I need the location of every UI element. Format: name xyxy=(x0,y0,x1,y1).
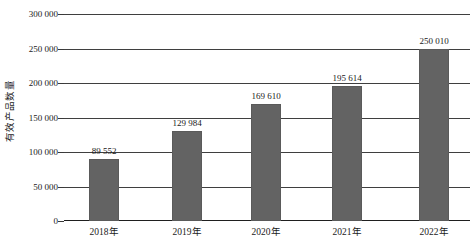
x-tick-label-2018: 2018年 xyxy=(69,228,139,238)
x-tick-label-2020: 2020年 xyxy=(231,228,301,238)
y-tick-label: 300 000 xyxy=(6,10,58,19)
bar-2020[interactable] xyxy=(251,104,281,221)
y-tick-label: 250 000 xyxy=(6,44,58,53)
y-tick-mark xyxy=(58,221,64,222)
x-tick-label-2021: 2021年 xyxy=(312,228,382,238)
x-tick-label-2022: 2022年 xyxy=(399,228,469,238)
y-tick-label: 200 000 xyxy=(6,79,58,88)
y-tick-label: 50 000 xyxy=(6,182,58,191)
y-tick-label: 150 000 xyxy=(6,113,58,122)
x-axis-tick-labels: 2018年 2019年 2020年 2021年 2022年 xyxy=(0,228,476,248)
y-tick-label: 0 xyxy=(6,217,58,226)
bar-2018[interactable] xyxy=(89,159,119,221)
bar-2019[interactable] xyxy=(172,131,202,221)
bar-2021[interactable] xyxy=(332,86,362,221)
y-axis-tick-labels: 300 000 250 000 200 000 150 000 100 000 … xyxy=(0,0,58,249)
bar-chart: 有效产品数量 300 000 250 000 200 000 150 000 1… xyxy=(0,0,476,249)
x-tick-label-2019: 2019年 xyxy=(152,228,222,238)
y-tick-label: 100 000 xyxy=(6,148,58,157)
bar-2022[interactable] xyxy=(419,49,449,222)
bars-layer xyxy=(64,14,470,221)
